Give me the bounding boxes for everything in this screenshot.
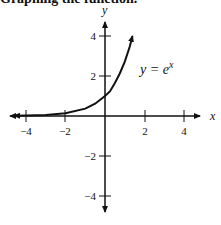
exponential-curve: [14, 36, 133, 116]
x-tick-label: 4: [181, 125, 187, 137]
x-tick-label: 2: [142, 125, 148, 137]
y-tick-label: 2: [91, 70, 97, 82]
x-axis-label: x: [209, 109, 216, 123]
y-axis-label: y: [101, 3, 108, 17]
equation-label: y = ex: [138, 59, 174, 77]
y-tick-label: 4: [91, 30, 97, 42]
y-tick-label: −4: [84, 190, 96, 202]
y-tick-label: −2: [84, 150, 96, 162]
x-tick-label: −4: [20, 125, 32, 137]
exponential-graph: −4 −2 2 4 4 2 −2 −4 x y y = ex: [0, 0, 221, 225]
x-tick-label: −2: [59, 125, 71, 137]
